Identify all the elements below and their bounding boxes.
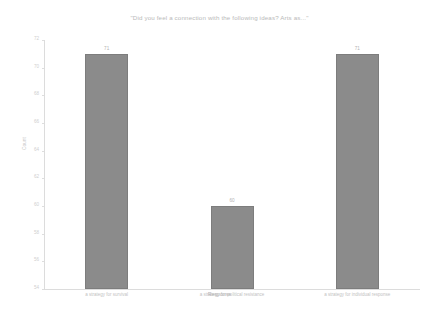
y-axis-tick-mark	[42, 68, 44, 69]
plot-area: 54565860626466687072 716071 a strategy f…	[44, 40, 420, 289]
chart-title: "Did you feel a connection with the foll…	[0, 14, 439, 21]
x-axis-title: Response	[0, 291, 439, 297]
y-axis-tick-label: 54	[24, 285, 39, 290]
bar-chart: "Did you feel a connection with the foll…	[0, 0, 439, 324]
y-axis-tick-mark	[42, 95, 44, 96]
y-axis-tick-label: 58	[24, 230, 39, 235]
y-axis-tick-label: 66	[24, 119, 39, 124]
x-axis-line	[44, 289, 420, 290]
y-axis-tick-label: 64	[24, 147, 39, 152]
y-axis-tick-mark	[42, 123, 44, 124]
y-axis-tick-label: 62	[24, 174, 39, 179]
bar	[211, 206, 254, 289]
bar-value-label: 60	[211, 198, 254, 203]
y-axis-line	[44, 40, 45, 289]
y-axis-tick-mark	[42, 178, 44, 179]
y-axis-tick-mark	[42, 40, 44, 41]
y-axis-tick-mark	[42, 151, 44, 152]
y-axis-tick-label: 68	[24, 91, 39, 96]
y-axis-tick-label: 72	[24, 36, 39, 41]
y-axis-tick-mark	[42, 261, 44, 262]
y-axis-tick-label: 70	[24, 64, 39, 69]
bar-column: 60	[211, 40, 254, 289]
bar-value-label: 71	[336, 46, 379, 51]
bar	[85, 54, 128, 289]
bar	[336, 54, 379, 289]
y-axis-tick-mark	[42, 206, 44, 207]
bar-column: 71	[85, 40, 128, 289]
y-axis-tick-mark	[42, 234, 44, 235]
y-axis-tick-label: 60	[24, 202, 39, 207]
y-axis-tick-label: 56	[24, 257, 39, 262]
bar-value-label: 71	[85, 46, 128, 51]
bar-column: 71	[336, 40, 379, 289]
y-axis-tick-mark	[42, 289, 44, 290]
